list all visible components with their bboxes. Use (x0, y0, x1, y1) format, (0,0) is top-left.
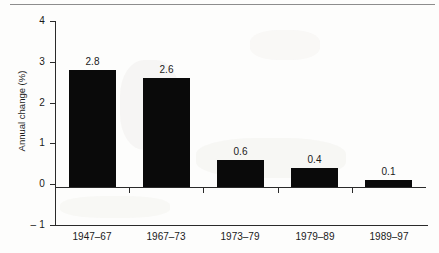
bar-value-label: 2.6 (133, 65, 200, 75)
x-axis-category-label: 1979–89 (278, 231, 352, 242)
x-axis-tick (129, 188, 130, 193)
y-axis-tick-label-wrap: 2 (0, 98, 55, 108)
bar-value-label: 2.8 (59, 57, 126, 67)
bottom-axis-rule (55, 225, 428, 226)
bar (143, 78, 190, 187)
top-divider-rule (10, 4, 435, 5)
y-axis-tick-label: 1 (5, 138, 45, 148)
bar (291, 168, 338, 187)
y-axis-tick-label: 2 (5, 98, 45, 108)
y-axis-tick-label-wrap: 3 (0, 57, 55, 67)
x-axis-tick (278, 188, 279, 193)
bar-value-label: 0.1 (355, 167, 422, 177)
y-axis-title: Annual change (%) (17, 51, 27, 171)
y-axis-tick-label: 0 (5, 179, 45, 189)
y-axis-tick-label: 3 (5, 57, 45, 67)
x-axis-tick (203, 188, 204, 193)
x-axis-category-label: 1989–97 (352, 231, 426, 242)
y-axis-tick-label: 4 (5, 16, 45, 26)
y-axis-line (55, 21, 56, 226)
bar-value-label: 0.4 (281, 155, 348, 165)
y-axis-tick-label-wrap: – 1 (0, 220, 55, 230)
bar (217, 160, 264, 187)
y-axis-tick-label: – 1 (5, 220, 45, 230)
zero-baseline (55, 187, 426, 188)
bar (69, 70, 116, 187)
bar-chart-figure: Annual change (%) 43210– 1 2.82.60.60.40… (0, 0, 439, 253)
x-axis-category-label: 1947–67 (55, 231, 129, 242)
y-axis-tick-label-wrap: 4 (0, 16, 55, 26)
y-axis-tick-label-wrap: 1 (0, 138, 55, 148)
bar (365, 180, 412, 187)
scan-artifact (250, 30, 320, 60)
bar-value-label: 0.6 (207, 147, 274, 157)
x-axis-category-label: 1973–79 (203, 231, 277, 242)
x-axis-category-label: 1967–73 (129, 231, 203, 242)
x-axis-tick (352, 188, 353, 193)
y-axis-tick-label-wrap: 0 (0, 179, 55, 189)
scan-artifact (60, 196, 170, 218)
